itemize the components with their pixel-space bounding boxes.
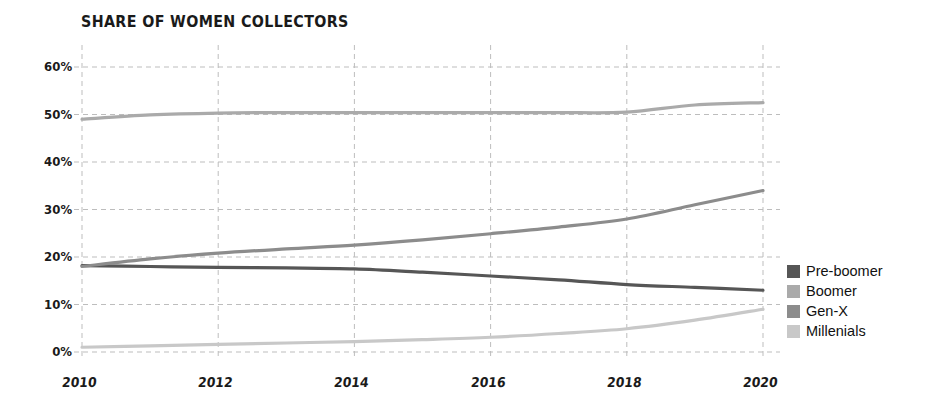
legend-color-swatch xyxy=(787,305,800,318)
series-line-pre-boomer xyxy=(82,266,763,291)
series-line-boomer xyxy=(82,103,763,120)
series-line-gen-x xyxy=(82,191,763,267)
chart-legend: Pre-boomerBoomerGen-XMillenials xyxy=(787,261,883,341)
legend-color-swatch xyxy=(787,285,800,298)
series-line-millenials xyxy=(82,309,763,347)
chart-screenshot: SHARE OF WOMEN COLLECTORS 0%10%20%30%40%… xyxy=(0,0,933,419)
legend-item[interactable]: Millenials xyxy=(787,321,883,341)
legend-color-swatch xyxy=(787,265,800,278)
legend-item[interactable]: Boomer xyxy=(787,281,883,301)
plot-area xyxy=(82,67,763,352)
legend-item-label: Gen-X xyxy=(806,304,848,319)
legend-item[interactable]: Gen-X xyxy=(787,301,883,321)
legend-item-label: Boomer xyxy=(806,284,857,299)
series-group xyxy=(82,103,763,348)
gridlines xyxy=(74,45,780,360)
legend-item-label: Millenials xyxy=(806,324,866,339)
chart-canvas xyxy=(0,0,933,419)
legend-item-label: Pre-boomer xyxy=(806,264,883,279)
legend-color-swatch xyxy=(787,325,800,338)
legend-item[interactable]: Pre-boomer xyxy=(787,261,883,281)
